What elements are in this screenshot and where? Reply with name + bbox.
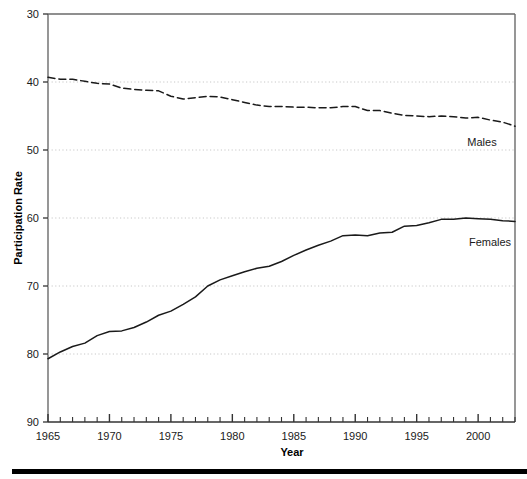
x-axis: 19651970197519801985199019952000 (36, 414, 515, 442)
y-tick-label-90: 30 (27, 8, 39, 20)
gridlines (48, 82, 515, 354)
y-tick-label-70: 50 (27, 144, 39, 156)
males-series-label: Males (467, 136, 497, 148)
series-line-males (48, 77, 515, 126)
participation-rate-chart: 90807060504030 1965197019751980198519901… (0, 0, 527, 479)
y-tick-label-40: 80 (27, 348, 39, 360)
x-tick-label-1965: 1965 (36, 430, 60, 442)
x-tick-label-1995: 1995 (404, 430, 428, 442)
x-tick-label-1985: 1985 (282, 430, 306, 442)
y-axis-title: Participation Rate (12, 171, 24, 265)
females-series-label: Females (469, 236, 512, 248)
x-tick-label-2000: 2000 (466, 430, 490, 442)
y-tick-label-30: 90 (27, 416, 39, 428)
y-axis: 90807060504030 (27, 8, 48, 428)
x-tick-label-1970: 1970 (97, 430, 121, 442)
y-tick-label-60: 60 (27, 212, 39, 224)
y-tick-label-50: 70 (27, 280, 39, 292)
x-tick-label-1990: 1990 (343, 430, 367, 442)
bottom-divider-rule (12, 469, 527, 474)
y-tick-label-80: 40 (27, 76, 39, 88)
x-tick-label-1975: 1975 (159, 430, 183, 442)
plot-area: 90807060504030 1965197019751980198519901… (0, 0, 527, 479)
x-axis-title: Year (280, 446, 304, 458)
x-tick-label-1980: 1980 (220, 430, 244, 442)
series-line-females (48, 218, 515, 359)
